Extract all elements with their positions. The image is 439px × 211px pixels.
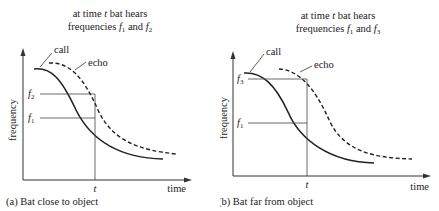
echo-curve bbox=[279, 69, 412, 159]
caption-b: (b) Bat far from object bbox=[220, 196, 313, 208]
call-label: call bbox=[266, 46, 281, 57]
call-curve bbox=[34, 69, 163, 159]
x-axis-arrow-icon bbox=[184, 178, 192, 183]
f1-label: f1 bbox=[237, 117, 244, 130]
title-line2: frequencies f1 and f3 bbox=[296, 23, 381, 36]
panel-a: at time t bat hears frequencies f1 and f… bbox=[0, 0, 220, 211]
x-axis-label: time bbox=[167, 183, 186, 194]
caption-a: (a) Bat close to object bbox=[6, 196, 98, 208]
echo-curve bbox=[49, 63, 176, 154]
call-leader bbox=[40, 53, 52, 67]
x-axis-arrow-icon bbox=[423, 174, 431, 179]
diagram-b: at time t bat hears frequencies f1 and f… bbox=[220, 0, 439, 211]
call-leader bbox=[250, 54, 264, 72]
y-axis-label: frequency bbox=[220, 96, 229, 139]
echo-label: echo bbox=[88, 57, 108, 68]
y-axis-arrow-icon bbox=[21, 48, 26, 56]
title-line1: at time t bat hears bbox=[301, 10, 376, 21]
echo-leader bbox=[75, 62, 86, 70]
y-axis-arrow-icon bbox=[231, 51, 236, 59]
f1-label: f1 bbox=[28, 112, 35, 125]
y-axis-label: frequency bbox=[7, 98, 18, 141]
echo-label: echo bbox=[314, 59, 334, 70]
x-axis-label: time bbox=[410, 181, 429, 192]
title-line2: frequencies f1 and f2 bbox=[68, 21, 153, 34]
t-label: t bbox=[94, 183, 98, 194]
title-line1: at time t bat hears bbox=[73, 8, 148, 19]
t-label: t bbox=[306, 179, 310, 190]
f2-label: f2 bbox=[28, 88, 35, 101]
panel-b: at time t bat hears frequencies f1 and f… bbox=[220, 0, 439, 211]
call-label: call bbox=[54, 44, 69, 55]
f3-label: f3 bbox=[237, 73, 244, 86]
echo-leader bbox=[300, 66, 312, 72]
diagram-a: at time t bat hears frequencies f1 and f… bbox=[0, 0, 220, 211]
